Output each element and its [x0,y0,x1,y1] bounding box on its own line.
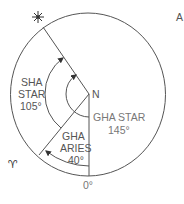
gha-aries-label-line1: GHA [62,130,85,142]
celestial-hour-angle-diagram: ♈ A N SHA STAR 105° GHA STAR 145° GHA AR… [0,0,184,204]
star-icon [32,11,44,23]
zero-degree-label: 0° [83,179,93,191]
sha-star-value: 105° [20,100,42,112]
sha-star-label-line1: SHA [21,76,43,88]
star-hour-circle-line [43,27,89,94]
north-pole-label: N [92,88,100,100]
gha-aries-value: 40° [68,154,84,166]
corner-label: A [176,11,183,23]
gha-star-label: GHA STAR [93,111,146,123]
gha-star-arc [66,75,89,117]
sha-star-arc [45,58,63,128]
sha-star-label-line2: STAR [18,88,46,100]
gha-aries-label-line2: ARIES [60,142,92,154]
gha-star-value: 145° [108,124,130,136]
aries-symbol-icon: ♈ [8,158,18,171]
